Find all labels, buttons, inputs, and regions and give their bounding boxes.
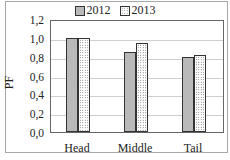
legend-item-2013: 2013 [120,3,156,18]
bar-head-2013 [78,38,90,132]
legend-label: 2013 [132,3,156,18]
y-tick-label: 0,0 [20,127,44,139]
y-tick-label: 1,2 [20,14,44,26]
y-axis-label: PF [2,76,17,89]
bar-tail-2012 [182,57,194,132]
bar-middle-2013 [136,43,148,132]
plot-area [50,20,224,133]
y-tick-label: 0,2 [20,108,44,120]
x-tick-label: Head [64,141,89,156]
x-tick-label: Middle [118,141,153,156]
y-tick-label: 0,4 [20,89,44,101]
bar-tail-2013 [194,55,206,132]
legend-label: 2012 [87,3,111,18]
y-tick-label: 0,6 [20,71,44,83]
y-tick-label: 0,8 [20,52,44,64]
legend-swatch-2013 [120,6,130,16]
bar-middle-2012 [124,52,136,132]
legend-item-2012: 2012 [75,3,111,18]
legend-swatch-2012 [75,6,85,16]
bar-head-2012 [66,38,78,132]
y-tick-label: 1,0 [20,33,44,45]
x-tick-label: Tail [184,141,203,156]
